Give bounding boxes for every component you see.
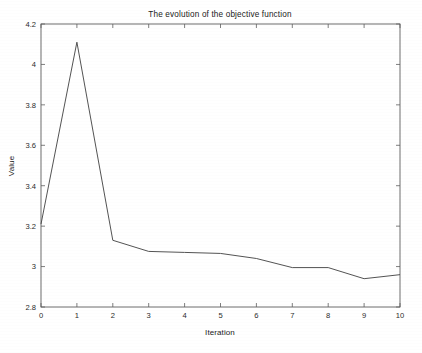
- chart-title: The evolution of the objective function: [148, 10, 292, 19]
- y-tick-label: 3.8: [25, 101, 36, 110]
- x-tick-label: 9: [362, 311, 366, 320]
- x-tick-label: 0: [39, 311, 43, 320]
- x-tick-label: 8: [326, 311, 330, 320]
- y-tick-label: 4.2: [25, 20, 36, 29]
- y-tick-label: 3.4: [25, 182, 36, 191]
- y-tick-label: 2.8: [25, 303, 36, 312]
- x-tick-label: 5: [218, 311, 222, 320]
- x-tick-label: 6: [254, 311, 258, 320]
- x-tick-label: 10: [396, 311, 404, 320]
- x-tick-label: 3: [147, 311, 151, 320]
- figure-background: [0, 0, 422, 353]
- y-tick-label: 4: [32, 60, 36, 69]
- figure-canvas: The evolution of the objective function …: [0, 0, 422, 353]
- y-axis-title: Value: [7, 155, 16, 176]
- x-tick-label: 4: [182, 311, 186, 320]
- y-tick-label: 3.6: [25, 141, 36, 150]
- x-tick-label: 1: [75, 311, 79, 320]
- x-tick-label: 2: [111, 311, 115, 320]
- objective-function-line-chart: The evolution of the objective function …: [0, 0, 422, 353]
- x-axis-title: Iteration: [205, 328, 235, 337]
- y-tick-label: 3: [32, 262, 36, 271]
- x-tick-label: 7: [290, 311, 294, 320]
- y-tick-label: 3.2: [25, 222, 36, 231]
